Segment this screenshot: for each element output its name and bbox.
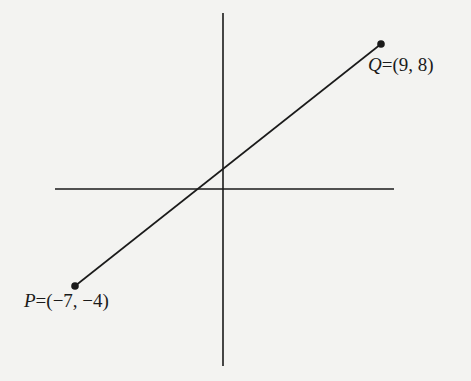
point-q-label: Q=(9, 8)	[368, 55, 434, 74]
point-p-dot	[71, 282, 79, 290]
point-p-label: P=(−7, −4)	[24, 291, 109, 310]
segment-pq	[75, 44, 381, 286]
point-q-dot	[377, 40, 385, 48]
point-p-coords: =(−7, −4)	[36, 290, 109, 311]
point-q-name: Q	[368, 54, 382, 75]
point-p-name: P	[24, 290, 36, 311]
point-q-coords: =(9, 8)	[382, 54, 434, 75]
